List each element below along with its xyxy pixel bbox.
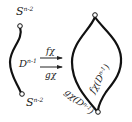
f-image-curve [95, 17, 121, 110]
bottom-sphere-label: Sn-2 [26, 96, 43, 109]
top-boundary-point [18, 24, 23, 29]
top-sphere-label: Sn-2 [16, 5, 33, 18]
bottom-shared-point [96, 110, 101, 115]
homotopy-diagram: Sn-2 Dn-1 Sn-2 fχ gχ fχ(Dn-1) gχ(Dn-1) [0, 0, 132, 122]
f-chi-label: fχ [45, 46, 55, 56]
maps: fχ gχ [40, 46, 62, 80]
right-images: fχ(Dn-1) gχ(Dn-1) [63, 13, 121, 117]
top-shared-point [93, 13, 98, 18]
bottom-boundary-point [20, 92, 25, 97]
g-chi-label: gχ [45, 70, 57, 80]
left-disk: Sn-2 Dn-1 Sn-2 [10, 5, 43, 109]
disk-label: Dn-1 [18, 57, 37, 69]
